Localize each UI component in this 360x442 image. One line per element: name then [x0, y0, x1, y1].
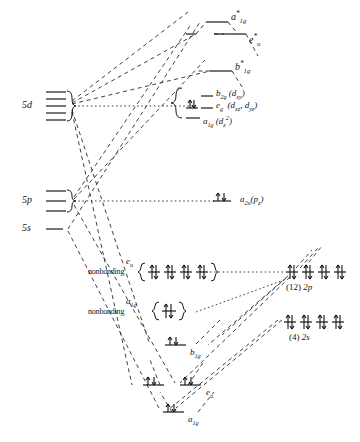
mo-label-a1g-star: a*1g: [231, 10, 246, 24]
mo-label-a2u: a2u(pz): [240, 194, 264, 206]
ligand-2s-caption: (4) 2s: [289, 332, 310, 342]
ligand-2p-levels: [286, 265, 346, 279]
metal-orbital-label-5p: 5p: [22, 194, 32, 205]
energy-levels: [0, 0, 360, 442]
a1g-nonbonding-right-brace: [179, 302, 186, 320]
mo-label-a1g-nonbonding: a1g: [126, 296, 137, 308]
mo-label-eu-nonbonding: eu: [126, 256, 133, 268]
a1g-nonbonding-text: nonbonding: [88, 307, 124, 316]
ligand-2p-count: (12): [286, 282, 301, 292]
level-eu-bonding: [143, 377, 201, 385]
eu-nonbonding-left-brace: [138, 263, 145, 281]
mo-energy-diagram: 5d 5p 5s a*1g e*u b*1g b2g (dxy) eg (dxz…: [0, 0, 360, 442]
mo-label-a1g-bonding: a1g: [188, 414, 199, 426]
metal-orbital-label-5s: 5s: [22, 222, 31, 233]
mo-label-a1g-d: a1g (dz2): [203, 114, 232, 128]
d-group-brace: [171, 88, 182, 118]
ligand-2s-name: 2s: [302, 332, 310, 342]
mo-label-b1g-star: b*1g: [235, 60, 250, 74]
mo-label-b1g: b1g: [190, 347, 201, 359]
metal-5d-lines: [46, 91, 76, 121]
ligand-2s-levels: [284, 315, 344, 329]
ligand-2p-caption: (12) 2p: [286, 282, 312, 292]
mo-label-eu-star: e*u: [249, 33, 260, 47]
metal-orbital-label-5d: 5d: [22, 99, 32, 110]
mo-label-b2g: b2g (dxy): [216, 88, 245, 100]
level-eu-nonbonding: [148, 265, 208, 279]
ligand-2p-name: 2p: [303, 282, 312, 292]
mo-label-eg: eg (dxz, dyz): [216, 100, 257, 112]
eu-nonbonding-text: nonbonding: [88, 267, 124, 276]
mo-label-eu-bonding: eu: [206, 387, 213, 399]
ligand-2s-count: (4): [289, 332, 300, 342]
a1g-nonbonding-left-brace: [152, 302, 159, 320]
level-a1g-nonbonding: [162, 304, 176, 318]
metal-5p-lines: [46, 190, 76, 212]
eu-nonbonding-right-brace: [211, 263, 218, 281]
